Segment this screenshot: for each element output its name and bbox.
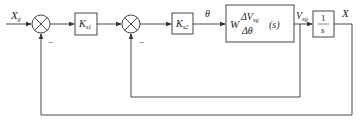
plant-prefix-w: W [230, 18, 240, 30]
sum2-minus-sign: − [139, 37, 144, 47]
block-diagram: Xg − − Kx1 Kx2 θ W ΔVxg Δθ (s) Vxg 1 s X [0, 0, 364, 124]
outer-feedback-line [41, 24, 352, 115]
block-kx1-label: Kx1 [78, 18, 91, 30]
sum1-minus-sign: − [48, 37, 53, 47]
integrator-numerator: 1 [321, 13, 326, 23]
block-kx2-label: Kx2 [175, 18, 188, 30]
plant-numerator: ΔVxg [240, 11, 259, 23]
input-label: Xg [10, 9, 21, 22]
plant-suffix: (s) [269, 19, 280, 31]
theta-label: θ [205, 8, 210, 19]
output-label: X [341, 7, 350, 19]
inner-feedback-line [131, 24, 300, 97]
summing-junction-2 [122, 15, 140, 33]
integrator-denominator: s [321, 25, 325, 35]
plant-denominator: Δθ [241, 25, 253, 36]
velocity-label: Vxg [296, 10, 308, 22]
summing-junction-1 [32, 15, 50, 33]
